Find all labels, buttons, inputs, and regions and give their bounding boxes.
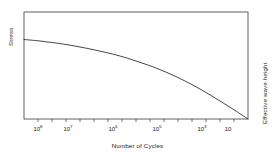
- chart-plot-area: [0, 0, 275, 160]
- chart-figure: Stress Effective wave height Number of C…: [0, 0, 275, 160]
- x-axis-tick-label: 10: [225, 126, 232, 132]
- x-axis-tick-exponent: 6: [115, 124, 117, 129]
- y-axis-left-title: Stress: [7, 28, 14, 46]
- x-axis-tick-label: 105: [152, 126, 161, 132]
- x-axis-tick-exponent: 5: [159, 124, 161, 129]
- x-axis-tick-label: 107: [63, 126, 72, 132]
- x-axis-tick-label: 103: [197, 126, 206, 132]
- series-line-s-n-fatigue-curve: [24, 40, 248, 120]
- x-axis-title: Number of Cycles: [0, 142, 275, 149]
- x-axis-tick-marks: [38, 119, 234, 122]
- plot-frame: [24, 12, 248, 119]
- x-axis-tick-label: 108: [33, 126, 42, 132]
- y-axis-right-title: Effective wave height: [261, 62, 268, 124]
- x-axis-tick-exponent: 7: [70, 124, 72, 129]
- x-axis-tick-exponent: 3: [204, 124, 206, 129]
- x-axis-tick-exponent: 8: [40, 124, 42, 129]
- x-axis-tick-label: 106: [108, 126, 117, 132]
